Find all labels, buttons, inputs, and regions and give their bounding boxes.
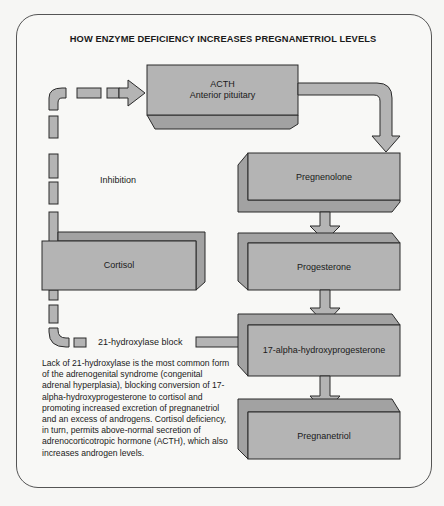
cortisol-label: Cortisol	[42, 260, 196, 271]
hydroxylase-block-label: 21-hydroxylase block	[98, 337, 183, 347]
pregnanetriol-label: Pregnanetriol	[248, 431, 400, 442]
hydroxyprogesterone-label: 17-alpha-hydroxyprogesterone	[248, 345, 400, 356]
progesterone-label: Progesterone	[248, 262, 400, 273]
pregnenolone-label: Pregnenolone	[248, 172, 400, 183]
pregnanetriol-box	[238, 399, 400, 459]
inhibition-feedback-arrow	[49, 80, 145, 242]
acth-title: ACTH	[147, 79, 298, 90]
inhibition-label: Inhibition	[100, 175, 136, 185]
caption-text: Lack of 21-hydroxylase is the most commo…	[42, 358, 232, 459]
acth-to-pregnenolone-arrow	[298, 83, 400, 152]
acth-label: ACTH Anterior pituitary	[147, 79, 298, 101]
acth-subtitle: Anterior pituitary	[147, 90, 298, 101]
